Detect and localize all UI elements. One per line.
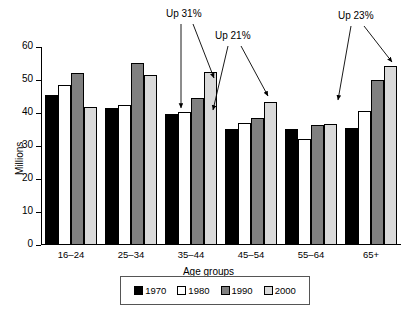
legend-label: 2000	[275, 285, 296, 296]
y-tick-mark	[36, 47, 41, 48]
bar-1970-55-64	[285, 129, 298, 245]
legend: 1970198019902000	[120, 276, 310, 305]
y-tick-mark	[36, 245, 41, 246]
bar-2000-25-34	[144, 75, 157, 245]
bar-2000-65+	[384, 66, 397, 245]
bar-1970-65+	[345, 128, 358, 245]
y-tick-label: 40	[7, 106, 33, 118]
bar-1980-35-44	[178, 112, 191, 245]
x-tick-label-1: 16–24	[41, 249, 101, 260]
bar-2000-16-24	[84, 107, 97, 245]
bar-group-25-34	[105, 47, 157, 245]
y-tick-20: 20	[0, 179, 41, 180]
bar-1980-25-34	[118, 105, 131, 245]
bar-1980-16-24	[58, 85, 71, 245]
bar-2000-35-44	[204, 72, 217, 245]
y-tick-label: 0	[7, 238, 33, 250]
bar-2000-55-64	[324, 124, 337, 245]
legend-item-1980: 1980	[177, 285, 209, 296]
bar-1970-16-24	[45, 95, 58, 245]
legend-swatch-2000	[264, 286, 273, 295]
y-tick-label: 60	[7, 40, 33, 52]
bar-1980-45-54	[238, 123, 251, 245]
y-tick-mark	[36, 113, 41, 114]
y-tick-label: 10	[7, 205, 33, 217]
legend-swatch-1980	[177, 286, 186, 295]
y-tick-label: 50	[7, 73, 33, 85]
bar-group-35-44	[165, 47, 217, 245]
y-tick-mark	[36, 179, 41, 180]
y-tick-10: 10	[0, 212, 41, 213]
legend-item-2000: 2000	[264, 285, 296, 296]
legend-swatch-1970	[134, 286, 143, 295]
legend-swatch-1990	[221, 286, 230, 295]
bar-group-45-54	[225, 47, 277, 245]
x-tick-label-5: 55–64	[281, 249, 341, 260]
bar-1990-55-64	[311, 125, 324, 245]
annotation-1: Up 31%	[166, 8, 202, 19]
y-tick-0: 0	[0, 245, 41, 246]
y-tick-mark	[36, 80, 41, 81]
y-tick-60: 60	[0, 47, 41, 48]
bar-group-65+	[345, 47, 397, 245]
bar-group-16-24	[45, 47, 97, 245]
x-tick-label-2: 25–34	[101, 249, 161, 260]
y-tick-40: 40	[0, 113, 41, 114]
legend-label: 1980	[188, 285, 209, 296]
bar-1970-25-34	[105, 108, 118, 245]
annotation-3: Up 23%	[338, 10, 374, 21]
x-tick-label-4: 45–54	[221, 249, 281, 260]
y-tick-mark	[36, 146, 41, 147]
x-tick-label-3: 35–44	[161, 249, 221, 260]
bar-1990-35-44	[191, 98, 204, 245]
y-axis-label: Millions	[14, 142, 25, 175]
bar-2000-45-54	[264, 102, 277, 245]
bar-1970-45-54	[225, 129, 238, 245]
bar-1990-25-34	[131, 63, 144, 245]
bar-chart: 0102030405060 Millions 16–2425–3435–4445…	[0, 0, 417, 317]
x-tick-label-6: 65+	[341, 249, 401, 260]
legend-item-1970: 1970	[134, 285, 166, 296]
legend-label: 1990	[232, 285, 253, 296]
bar-1990-45-54	[251, 118, 264, 245]
legend-item-1990: 1990	[221, 285, 253, 296]
bar-group-55-64	[285, 47, 337, 245]
bar-1990-16-24	[71, 73, 84, 245]
bar-1970-35-44	[165, 114, 178, 245]
legend-label: 1970	[145, 285, 166, 296]
y-tick-50: 50	[0, 80, 41, 81]
annotation-2: Up 21%	[215, 30, 251, 41]
y-tick-mark	[36, 212, 41, 213]
bar-1980-55-64	[298, 139, 311, 245]
bar-1980-65+	[358, 111, 371, 245]
bar-1990-65+	[371, 80, 384, 245]
